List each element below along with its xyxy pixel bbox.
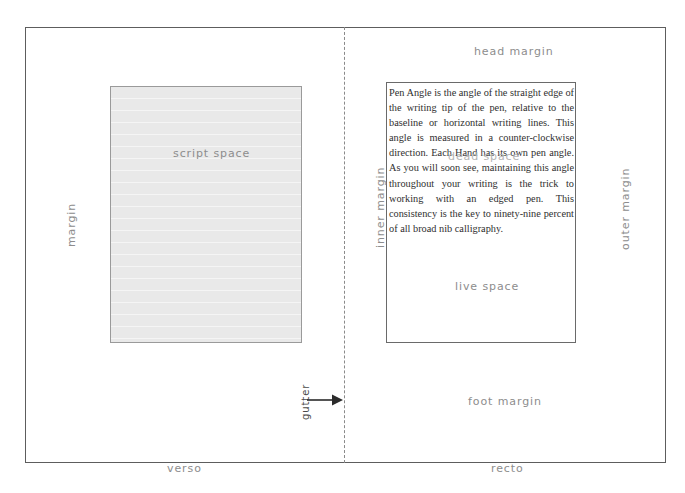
- label-foot-margin: foot margin: [468, 395, 542, 408]
- spine-fold-line: [344, 27, 345, 463]
- label-verso-margin: margin: [65, 203, 78, 247]
- label-live-space: live space: [455, 280, 519, 293]
- script-space-block: [110, 86, 302, 343]
- arrow-right-icon: [306, 392, 344, 408]
- label-script-space: script space: [173, 147, 250, 160]
- label-verso-page: verso: [167, 462, 202, 475]
- label-head-margin: head margin: [474, 45, 554, 58]
- script-space-ruling: [111, 87, 301, 342]
- label-dead-space: dead space: [448, 150, 520, 163]
- label-outer-margin: outer margin: [619, 168, 632, 250]
- label-inner-margin: inner margin: [374, 167, 387, 248]
- label-recto-page: recto: [491, 462, 524, 475]
